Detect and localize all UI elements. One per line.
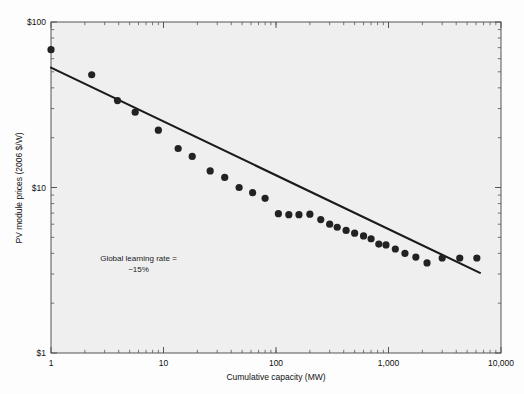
data-point: [295, 211, 302, 218]
x-tick-label: 10,000: [488, 358, 514, 368]
data-point: [175, 145, 182, 152]
x-tick-label: 1: [49, 358, 54, 368]
data-point: [236, 184, 243, 191]
data-point: [207, 167, 214, 174]
data-point: [375, 240, 382, 247]
data-point: [221, 174, 228, 181]
data-point: [423, 259, 430, 266]
data-point: [367, 235, 374, 242]
chart-figure: 1101001,00010,000 $1$10$100 Cumulative c…: [0, 0, 524, 394]
y-axis-title: PV module prices (2006 $/W): [14, 132, 24, 243]
data-point: [155, 127, 162, 134]
data-point: [439, 254, 446, 261]
data-point: [47, 46, 54, 53]
data-point: [285, 211, 292, 218]
data-point: [343, 227, 350, 234]
data-point: [334, 224, 341, 231]
data-point: [317, 216, 324, 223]
data-point: [189, 153, 196, 160]
data-point: [351, 230, 358, 237]
data-point: [249, 189, 256, 196]
data-point: [132, 109, 139, 116]
y-tick-label: $1: [37, 348, 47, 358]
data-point: [401, 250, 408, 257]
data-point: [473, 254, 480, 261]
x-tick-label: 1,000: [378, 358, 400, 368]
y-tick-label: $10: [32, 183, 46, 193]
data-point: [261, 195, 268, 202]
data-point: [114, 97, 121, 104]
data-point: [88, 71, 95, 78]
x-tick-label: 10: [159, 358, 169, 368]
annotation-line-1: Global learning rate =: [100, 254, 177, 263]
data-point: [456, 254, 463, 261]
annotation-line-2: ~15%: [128, 265, 149, 274]
data-point: [382, 241, 389, 248]
x-axis-title: Cumulative capacity (MW): [226, 372, 325, 382]
y-tick-label: $100: [27, 17, 46, 27]
data-point: [412, 253, 419, 260]
data-point: [360, 232, 367, 239]
data-point: [392, 245, 399, 252]
data-point: [326, 221, 333, 228]
pv-learning-curve-chart: 1101001,00010,000 $1$10$100 Cumulative c…: [0, 0, 524, 394]
data-point: [275, 210, 282, 217]
x-tick-label: 100: [269, 358, 283, 368]
plot-area-background: [51, 22, 501, 353]
data-point: [306, 211, 313, 218]
